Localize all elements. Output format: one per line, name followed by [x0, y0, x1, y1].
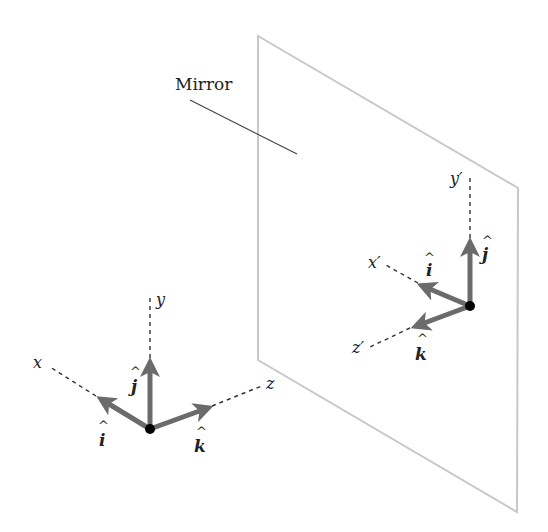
mirror-leader-line	[190, 100, 297, 154]
left-frame: y x z ^ j ^ i ^ k	[33, 290, 275, 456]
right-origin-dot	[465, 301, 475, 311]
left-z-axis	[212, 385, 264, 406]
right-z-label: z′	[351, 338, 364, 357]
right-x-label: x′	[368, 253, 381, 272]
right-frame: y′ x′ z′ ^ j ^ i ^ k	[351, 169, 493, 364]
left-x-axis	[50, 367, 96, 396]
left-z-label: z	[265, 374, 275, 393]
mirror-label: Mirror	[175, 74, 233, 94]
left-origin-dot	[145, 424, 155, 434]
right-j-hat-label: j	[479, 244, 489, 264]
right-i-hat-label: i	[426, 260, 432, 280]
left-y-label: y	[155, 290, 166, 309]
right-k-hat-arrow	[419, 306, 470, 325]
left-i-hat-label: i	[99, 430, 105, 450]
left-k-hat-label: k	[194, 436, 206, 456]
left-x-label: x	[33, 353, 42, 372]
left-j-hat-label: j	[128, 376, 138, 396]
right-x-axis	[384, 264, 418, 283]
right-i-hat-arrow	[425, 287, 470, 306]
left-i-hat-arrow	[104, 401, 150, 429]
right-z-axis	[370, 328, 410, 347]
mirror-plane	[258, 36, 518, 512]
right-y-label: y′	[449, 169, 463, 188]
right-k-hat-label: k	[415, 344, 427, 364]
mirror-reflection-diagram: Mirror y x z ^ j ^ i ^ k y	[0, 0, 548, 532]
